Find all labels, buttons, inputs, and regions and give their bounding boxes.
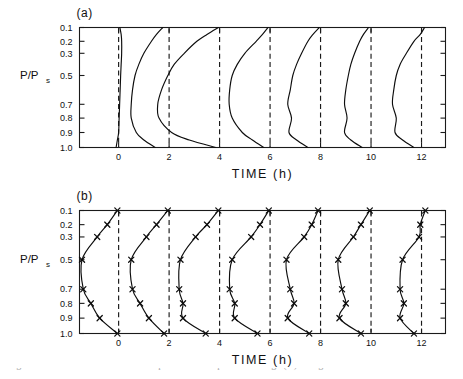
data-marker-b-t=4h-2 xyxy=(193,234,198,239)
x-tick-label-b-5: 10 xyxy=(366,338,376,348)
y-tick-label-b-5: 0.8 xyxy=(60,299,73,309)
data-marker-b-t=2h-5 xyxy=(137,301,142,306)
panel-b: (b)0.10.20.30.50.70.80.91.0P/Ps024681012… xyxy=(20,189,446,367)
y-tick-label-b-3: 0.5 xyxy=(60,255,73,265)
profile-curve-a-t=2h xyxy=(131,28,163,148)
data-marker-b-t=4h-1 xyxy=(204,222,209,227)
x-tick-label-a-6: 12 xyxy=(417,152,427,162)
data-marker-b-t=0h-6 xyxy=(97,316,102,321)
y-tick-label-b-1: 0.2 xyxy=(60,220,73,230)
profile-a-t=12h xyxy=(392,28,424,148)
profile-b-t=0h xyxy=(79,208,120,336)
profile-curve-a-t=6h xyxy=(229,28,268,148)
x-tick-label-a-4: 8 xyxy=(318,152,323,162)
data-marker-b-t=12h-2 xyxy=(416,234,421,239)
y-tick-label-b-7: 1.0 xyxy=(60,329,73,339)
y-axis-title-subscript-a: s xyxy=(46,76,50,85)
caption-clipped-strip: Figure 10. Time evolution of vertical pr… xyxy=(0,368,463,379)
profile-curve-b-t=4h xyxy=(179,211,219,334)
x-axis-title-a: TIME (h) xyxy=(232,167,293,181)
y-axis-title-b: P/P xyxy=(20,253,39,265)
data-marker-b-t=2h-6 xyxy=(146,316,151,321)
x-tick-label-b-2: 4 xyxy=(217,338,222,348)
figure-caption: Figure 10. Time evolution of vertical pr… xyxy=(8,368,458,370)
figure-root: (a)0.10.20.30.50.70.80.91.0P/Ps024681012… xyxy=(0,0,463,379)
x-tick-label-a-1: 2 xyxy=(167,152,172,162)
panel-label-a: (a) xyxy=(77,6,93,20)
x-axis-title-b: TIME (h) xyxy=(232,353,293,367)
profile-b-t=10h xyxy=(336,208,373,336)
data-marker-b-t=0h-5 xyxy=(88,301,93,306)
data-marker-b-t=6h-6 xyxy=(232,316,237,321)
y-tick-label-a-0: 0.1 xyxy=(60,23,73,33)
x-tick-label-a-5: 10 xyxy=(366,152,376,162)
data-marker-b-t=10h-1 xyxy=(358,222,363,227)
data-marker-b-t=6h-1 xyxy=(257,222,262,227)
x-tick-label-b-3: 6 xyxy=(268,338,273,348)
x-tick-label-a-3: 6 xyxy=(268,152,273,162)
figure-canvas: (a)0.10.20.30.50.70.80.91.0P/Ps024681012… xyxy=(0,0,463,379)
profile-a-t=6h xyxy=(229,28,268,148)
profile-b-t=2h xyxy=(129,208,171,336)
data-marker-b-t=10h-2 xyxy=(351,234,356,239)
plot-frame-b xyxy=(80,211,446,334)
profile-a-t=2h xyxy=(131,28,163,148)
y-tick-label-a-2: 0.3 xyxy=(60,49,73,59)
profile-curve-b-t=10h xyxy=(338,211,370,334)
y-tick-label-a-6: 0.9 xyxy=(60,128,73,138)
profile-curve-a-t=8h xyxy=(288,28,320,148)
data-marker-b-t=0h-1 xyxy=(105,222,110,227)
profile-curve-a-t=12h xyxy=(392,28,424,148)
data-marker-b-t=8h-2 xyxy=(302,234,307,239)
y-axis-title-subscript-b: s xyxy=(46,260,50,269)
data-marker-b-t=2h-1 xyxy=(154,222,159,227)
data-marker-b-t=0h-2 xyxy=(95,234,100,239)
data-marker-b-t=6h-3 xyxy=(230,257,235,262)
panel-label-b: (b) xyxy=(77,189,93,203)
y-tick-label-b-0: 0.1 xyxy=(60,206,73,216)
profile-a-t=4h xyxy=(157,28,218,148)
data-marker-b-t=2h-2 xyxy=(144,234,149,239)
profile-b-t=8h xyxy=(284,208,321,336)
x-tick-label-a-2: 4 xyxy=(217,152,222,162)
profile-b-t=6h xyxy=(227,208,271,336)
x-tick-label-b-6: 12 xyxy=(417,338,427,348)
profile-curve-b-t=0h xyxy=(81,211,117,334)
data-marker-b-t=6h-2 xyxy=(249,234,254,239)
y-tick-label-b-6: 0.9 xyxy=(60,313,73,323)
y-tick-label-b-4: 0.7 xyxy=(60,284,73,294)
data-marker-b-t=8h-1 xyxy=(309,222,314,227)
y-tick-label-a-4: 0.7 xyxy=(60,100,73,110)
y-axis-title-a: P/P xyxy=(20,69,39,81)
profile-b-t=4h xyxy=(177,208,221,336)
profile-curve-b-t=2h xyxy=(130,211,168,334)
profile-a-t=10h xyxy=(344,28,368,148)
y-tick-label-a-3: 0.5 xyxy=(60,71,73,81)
profile-b-t=12h xyxy=(397,208,427,336)
x-tick-label-b-0: 0 xyxy=(116,338,121,348)
profile-a-t=8h xyxy=(288,28,320,148)
profile-curve-a-t=10h xyxy=(344,28,368,148)
y-tick-label-b-2: 0.3 xyxy=(60,232,73,242)
panel-a: (a)0.10.20.30.50.70.80.91.0P/Ps024681012… xyxy=(20,6,446,181)
data-marker-b-t=4h-6 xyxy=(180,316,185,321)
x-tick-label-b-4: 8 xyxy=(318,338,323,348)
y-tick-label-a-5: 0.8 xyxy=(60,113,73,123)
x-tick-label-b-1: 2 xyxy=(167,338,172,348)
y-tick-label-a-7: 1.0 xyxy=(60,143,73,153)
y-tick-label-a-1: 0.2 xyxy=(60,37,73,47)
x-tick-label-a-0: 0 xyxy=(116,152,121,162)
profile-curve-b-t=6h xyxy=(229,211,268,334)
profile-curve-a-t=4h xyxy=(157,28,218,148)
